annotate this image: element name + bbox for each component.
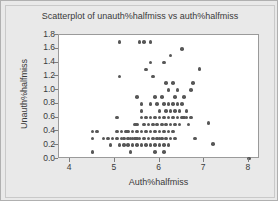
- scatter-point: [144, 116, 148, 120]
- plot-area: [58, 34, 259, 158]
- scatter-point: [171, 116, 175, 120]
- scatter-point: [193, 137, 197, 141]
- scatter-point: [178, 109, 182, 113]
- scatter-point: [167, 143, 171, 147]
- scatter-point: [122, 143, 126, 147]
- scatter-point: [173, 95, 177, 99]
- scatter-point: [167, 102, 171, 106]
- y-axis-tick-label: 1.0: [31, 85, 55, 94]
- scatter-point: [207, 121, 211, 125]
- x-axis-tick-mark: [159, 158, 160, 162]
- y-axis-tick-mark: [54, 117, 58, 118]
- scatter-point: [111, 137, 115, 141]
- scatter-point: [138, 40, 142, 44]
- scatter-point: [187, 123, 191, 127]
- scatter-point: [164, 137, 168, 141]
- y-axis-tick-mark: [54, 34, 58, 35]
- scatter-points-layer: [59, 35, 258, 157]
- y-axis-tick-mark: [54, 62, 58, 63]
- scatter-point: [158, 130, 162, 134]
- scatter-point: [135, 143, 139, 147]
- scatter-point: [140, 109, 144, 113]
- scatter-point: [91, 137, 95, 141]
- scatter-point: [149, 116, 153, 120]
- scatter-point: [109, 143, 113, 147]
- scatter-point: [126, 143, 130, 147]
- x-axis-tick-mark: [69, 158, 70, 162]
- scatter-point: [189, 88, 193, 92]
- scatter-point: [162, 116, 166, 120]
- scatter-point: [162, 150, 166, 154]
- scatter-point: [153, 143, 157, 147]
- scatter-point: [102, 137, 106, 141]
- scatter-point: [164, 109, 168, 113]
- scatter-point: [171, 81, 175, 85]
- scatter-point: [173, 137, 177, 141]
- x-axis-tick-label: 5: [104, 162, 124, 172]
- x-axis-tick-label: 4: [59, 162, 79, 172]
- y-axis-tick-labels: 0.00.20.40.60.81.01.21.41.61.8: [27, 34, 55, 158]
- scatter-point: [180, 47, 184, 51]
- scatter-point: [162, 61, 166, 65]
- scatter-point: [115, 116, 119, 120]
- scatter-point: [191, 81, 195, 85]
- x-axis-tick-mark: [203, 158, 204, 162]
- scatter-point: [135, 95, 139, 99]
- y-axis-tick-mark: [54, 89, 58, 90]
- x-axis-tick-mark: [114, 158, 115, 162]
- scatter-point: [173, 109, 177, 113]
- scatter-point: [144, 68, 148, 72]
- scatter-point: [142, 40, 146, 44]
- scatter-point: [153, 130, 157, 134]
- scatter-point: [162, 143, 166, 147]
- scatter-point: [182, 95, 186, 99]
- scatter-point: [149, 61, 153, 65]
- scatter-point: [153, 95, 157, 99]
- scatter-point: [149, 102, 153, 106]
- scatter-point: [173, 123, 177, 127]
- scatter-point: [164, 81, 168, 85]
- y-axis-tick-label: 0.8: [31, 98, 55, 107]
- scatter-point: [189, 116, 193, 120]
- scatter-point: [176, 102, 180, 106]
- scatter-point: [147, 137, 151, 141]
- scatter-point: [169, 109, 173, 113]
- scatter-point: [140, 143, 144, 147]
- scatter-point: [115, 137, 119, 141]
- y-axis-tick-label: 1.6: [31, 43, 55, 52]
- y-axis-tick-mark: [54, 75, 58, 76]
- scatter-point: [115, 130, 119, 134]
- scatter-point: [131, 143, 135, 147]
- y-axis-tick-label: 1.4: [31, 57, 55, 66]
- scatter-point: [185, 116, 189, 120]
- scatter-point: [164, 123, 168, 127]
- scatter-point: [120, 130, 124, 134]
- scatter-point: [151, 137, 155, 141]
- scatter-point: [95, 130, 99, 134]
- scatter-point: [185, 109, 189, 113]
- scatter-point: [144, 143, 148, 147]
- scatter-point: [118, 40, 122, 44]
- scatter-point: [126, 130, 130, 134]
- y-axis-tick-label: 1.2: [31, 71, 55, 80]
- scatter-point: [122, 137, 126, 141]
- scatter-point: [171, 102, 175, 106]
- scatter-point: [144, 130, 148, 134]
- scatter-point: [142, 123, 146, 127]
- y-axis-tick-mark: [54, 144, 58, 145]
- scatter-point: [169, 137, 173, 141]
- scatter-point: [153, 150, 157, 154]
- scatter-point: [167, 116, 171, 120]
- y-axis-tick-mark: [54, 103, 58, 104]
- y-axis-tick-label: 0.2: [31, 140, 55, 149]
- scatter-point: [149, 40, 153, 44]
- scatter-point: [160, 95, 164, 99]
- x-axis-tick-mark: [248, 158, 249, 162]
- scatter-point: [198, 67, 202, 71]
- scatter-point: [167, 130, 171, 134]
- x-axis-tick-label: 6: [149, 162, 169, 172]
- scatterplot-screenshot: Scatterplot of unauth%halfmiss vs auth%h…: [0, 0, 278, 201]
- scatter-point: [171, 130, 175, 134]
- x-axis-title: Auth%halfmiss: [58, 177, 259, 187]
- scatter-point: [169, 54, 173, 58]
